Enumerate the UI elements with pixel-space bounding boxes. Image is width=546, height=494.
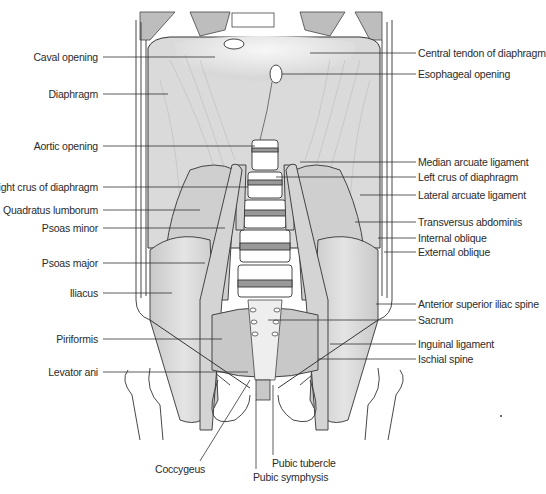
label-median-arcuate-ligament: Median arcuate ligament [418,156,528,168]
label-piriformis: Piriformis [56,333,98,345]
label-coccygeus: Coccygeus [155,463,205,475]
label-central-tendon-of-diaphragm: Central tendon of diaphragm [418,47,546,59]
label-diaphragm: Diaphragm [48,88,98,100]
label-levator-ani: Levator ani [48,366,98,378]
label-ischial-spine: Ischial spine [418,353,473,365]
caval-opening [224,39,244,49]
label-internal-oblique: Internal oblique [418,232,487,244]
label-psoas-minor: Psoas minor [42,222,98,234]
label-transversus-abdominis: Transversus abdominis [418,216,522,228]
label-anterior-superior-iliac-spine: Anterior superior iliac spine [418,298,539,310]
label-pubic-tubercle: Pubic tubercle [272,457,336,469]
label-inguinal-ligament: Inguinal ligament [418,338,494,350]
label-psoas-major: Psoas major [42,257,98,269]
label-left-crus-of-diaphragm: Left crus of diaphragm [418,171,518,183]
label-external-oblique: External oblique [418,246,490,258]
stray-mark [500,415,502,417]
label-pubic-symphysis: Pubic symphysis [253,471,328,483]
esophageal-opening [270,65,282,83]
label-iliacus: Iliacus [70,287,98,299]
label-aortic-opening: Aortic opening [34,140,98,152]
label-caval-opening: Caval opening [33,51,98,63]
label-sacrum: Sacrum [418,314,453,326]
pubic-symphysis [256,380,270,400]
label-right-crus-of-diaphragm: Right crus of diaphragm [0,181,98,193]
label-esophageal-opening: Esophageal opening [418,68,510,80]
label-lateral-arcuate-ligament: Lateral arcuate ligament [418,189,526,201]
label-quadratus-lumborum: Quadratus lumborum [3,204,98,216]
